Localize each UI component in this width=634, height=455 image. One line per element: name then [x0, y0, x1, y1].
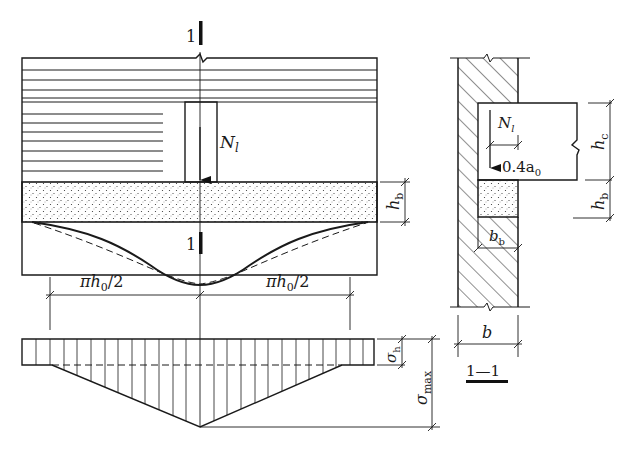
pad-section [478, 180, 518, 217]
section-title-underline [466, 380, 508, 383]
section-mark-top [199, 21, 203, 45]
section-mark-bottom [199, 232, 203, 254]
svg-text:hc: hc [589, 134, 611, 150]
svg-text:hb: hb [384, 193, 406, 210]
pad-height-label: hb [384, 193, 406, 210]
stress-outline [22, 339, 374, 427]
stress-diagram [22, 335, 440, 431]
sigma-dimensions [200, 335, 440, 431]
elevation-view [22, 21, 410, 427]
section-mark-label-top: 1 [186, 27, 196, 46]
section-pad-height-label: hb [589, 193, 611, 210]
masonry-courses-left [22, 114, 163, 171]
svg-text:σh: σh [382, 346, 402, 363]
sigma-h-label: σh [382, 346, 402, 363]
svg-text:hb: hb [589, 193, 611, 210]
masonry-courses-upper [22, 70, 377, 102]
section-1-1 [450, 54, 614, 383]
section-mark-label-bottom: 1 [186, 235, 196, 254]
diagram-canvas: 1 1 Nl hb πh0/2 πh0/2 σh σmax Nl 0.4a0 h… [0, 0, 634, 455]
section-title: 1—1 [466, 362, 500, 380]
beam-height-label: hc [589, 134, 611, 150]
svg-text:σmax: σmax [412, 370, 434, 405]
load-label: Nl [219, 132, 239, 155]
beam-end [185, 102, 217, 182]
stress-hatching [36, 339, 363, 421]
wall-thickness-label: b [482, 323, 492, 342]
rigid-pad [22, 182, 377, 222]
sigma-max-label: σmax [412, 370, 434, 405]
